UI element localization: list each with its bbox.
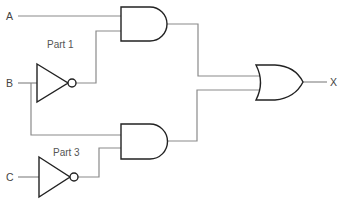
or-gate [256, 65, 303, 100]
output-label-x: X [330, 76, 337, 88]
wire-and2-out [167, 90, 260, 141]
inversion-bubble-2 [70, 173, 78, 181]
wire-and1-out [167, 24, 260, 76]
and-gate-1 [121, 7, 167, 41]
and-gate-2 [121, 124, 168, 159]
not-gate-1 [37, 64, 76, 102]
not-gate-2 [39, 157, 78, 197]
wire-not2-out [78, 148, 121, 177]
input-label-c: C [6, 171, 14, 183]
wire-not1-out [76, 31, 121, 83]
input-label-a: A [6, 10, 13, 22]
inversion-bubble-1 [68, 79, 76, 87]
input-label-b: B [6, 77, 13, 89]
logic-circuit-diagram: A B C X Part 1 Part 3 [0, 0, 343, 205]
annotation-part-3: Part 3 [53, 147, 80, 158]
annotation-part-1: Part 1 [47, 39, 74, 50]
